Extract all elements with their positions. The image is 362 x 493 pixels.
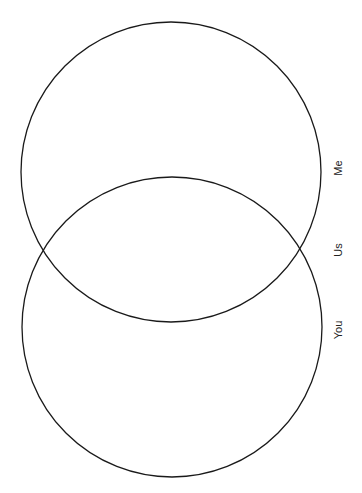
label-me: Me bbox=[332, 160, 344, 175]
circle-you bbox=[22, 177, 322, 477]
circle-me bbox=[21, 22, 321, 322]
label-you: You bbox=[332, 321, 344, 340]
label-us: Us bbox=[332, 243, 344, 257]
venn-diagram: Me Us You bbox=[0, 0, 362, 493]
